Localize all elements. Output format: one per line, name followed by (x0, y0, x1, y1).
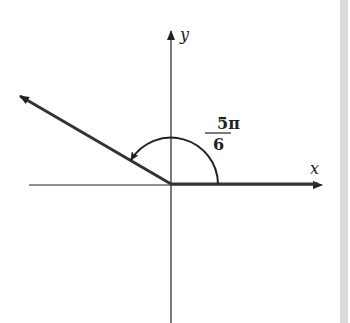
terminal-side-arrow (20, 96, 171, 184)
diagram-canvas: y x 5π 6 (0, 0, 350, 323)
unit-angle-diagram: y x 5π 6 (0, 0, 350, 323)
angle-label-denominator: 6 (213, 135, 224, 154)
angle-arc (131, 138, 218, 184)
angle-label-numerator: 5π (217, 114, 240, 133)
y-axis-label: y (179, 25, 190, 44)
x-axis-label: x (310, 159, 319, 178)
page-edge-bar (340, 0, 348, 323)
